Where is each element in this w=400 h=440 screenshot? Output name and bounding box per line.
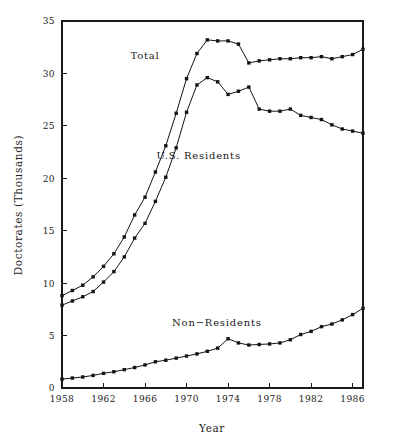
- data-point: [289, 57, 292, 60]
- data-point: [361, 307, 364, 310]
- data-point: [81, 284, 84, 287]
- data-point: [71, 299, 74, 302]
- data-point: [60, 303, 63, 306]
- data-point: [299, 56, 302, 59]
- data-point: [330, 322, 333, 325]
- data-point: [216, 39, 219, 42]
- y-tick-label-5: 5: [49, 331, 55, 341]
- series-line: [62, 78, 363, 306]
- data-point: [81, 295, 84, 298]
- y-axis-ticks: [62, 21, 67, 388]
- data-point: [174, 146, 177, 149]
- series-label-non-residents: Non−Residents: [172, 317, 262, 328]
- data-point: [216, 80, 219, 83]
- data-point: [174, 356, 177, 359]
- data-point: [71, 376, 74, 379]
- data-point: [247, 85, 250, 88]
- chart-figure: 19581962196619701974197819821986 0510152…: [0, 0, 400, 440]
- data-point: [351, 313, 354, 316]
- data-point: [226, 337, 229, 340]
- data-point: [164, 176, 167, 179]
- y-tick-label-20: 20: [43, 174, 55, 184]
- plot-border: [62, 21, 363, 388]
- data-point: [143, 222, 146, 225]
- x-tick-label-1966: 1966: [133, 394, 158, 404]
- data-point: [60, 294, 63, 297]
- series-layer: [60, 38, 364, 381]
- y-tick-label-15: 15: [43, 226, 55, 236]
- data-point: [289, 107, 292, 110]
- y-axis-title: Doctorates (Thousands): [12, 135, 24, 275]
- data-point: [185, 77, 188, 80]
- data-point: [195, 352, 198, 355]
- data-point: [226, 39, 229, 42]
- y-tick-label-35: 35: [43, 16, 55, 26]
- data-point: [133, 236, 136, 239]
- data-point: [361, 132, 364, 135]
- series-annotation-labels: TotalU.S. ResidentsNon−Residents: [131, 50, 262, 328]
- data-point: [133, 213, 136, 216]
- data-point: [341, 55, 344, 58]
- series-label-total: Total: [131, 50, 160, 61]
- data-point: [278, 341, 281, 344]
- data-point: [320, 55, 323, 58]
- data-point: [123, 255, 126, 258]
- data-point: [299, 114, 302, 117]
- data-point: [60, 377, 63, 380]
- data-point: [71, 289, 74, 292]
- data-point: [278, 109, 281, 112]
- data-point: [351, 53, 354, 56]
- data-point: [91, 374, 94, 377]
- x-tick-label-1986: 1986: [340, 394, 365, 404]
- x-tick-label-1978: 1978: [257, 394, 282, 404]
- data-point: [341, 127, 344, 130]
- data-point: [123, 368, 126, 371]
- data-point: [206, 38, 209, 41]
- x-tick-label-1962: 1962: [91, 394, 116, 404]
- data-point: [299, 333, 302, 336]
- data-point: [102, 280, 105, 283]
- data-point: [247, 343, 250, 346]
- series-line: [62, 40, 363, 296]
- data-point: [361, 48, 364, 51]
- y-axis-tick-labels: 05101520253035: [43, 16, 55, 393]
- data-point: [237, 90, 240, 93]
- data-point: [91, 275, 94, 278]
- data-point: [330, 57, 333, 60]
- data-point: [226, 93, 229, 96]
- x-axis-ticks: [62, 383, 353, 388]
- data-point: [91, 290, 94, 293]
- data-point: [164, 359, 167, 362]
- data-point: [81, 375, 84, 378]
- data-point: [154, 200, 157, 203]
- plot-frame: [62, 21, 363, 388]
- data-point: [195, 83, 198, 86]
- data-point: [258, 343, 261, 346]
- data-point: [164, 144, 167, 147]
- data-point: [289, 338, 292, 341]
- x-tick-label-1982: 1982: [299, 394, 324, 404]
- data-point: [174, 112, 177, 115]
- series-u-s-residents: [60, 76, 364, 307]
- y-tick-label-30: 30: [43, 69, 55, 79]
- data-point: [247, 61, 250, 64]
- data-point: [320, 118, 323, 121]
- data-point: [216, 346, 219, 349]
- data-point: [123, 235, 126, 238]
- data-point: [237, 341, 240, 344]
- data-point: [320, 325, 323, 328]
- data-point: [112, 270, 115, 273]
- data-point: [258, 107, 261, 110]
- x-tick-label-1958: 1958: [50, 394, 75, 404]
- data-point: [102, 372, 105, 375]
- data-point: [268, 109, 271, 112]
- data-point: [309, 56, 312, 59]
- data-point: [268, 58, 271, 61]
- data-point: [206, 350, 209, 353]
- x-tick-label-1970: 1970: [174, 394, 199, 404]
- data-point: [185, 111, 188, 114]
- data-point: [154, 170, 157, 173]
- data-point: [309, 330, 312, 333]
- data-point: [258, 59, 261, 62]
- data-point: [112, 252, 115, 255]
